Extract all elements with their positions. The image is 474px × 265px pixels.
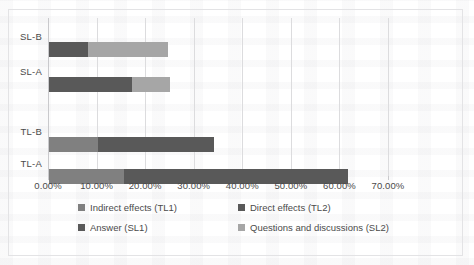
gridline bbox=[242, 18, 243, 176]
gridline bbox=[194, 18, 195, 176]
legend-swatch-icon bbox=[238, 204, 245, 211]
legend-label: Indirect effects (TL1) bbox=[90, 202, 177, 213]
legend-label: Direct effects (TL2) bbox=[250, 202, 331, 213]
value-axis-label: 10.00% bbox=[71, 180, 123, 191]
bar-segment[interactable] bbox=[132, 77, 171, 92]
value-axis-label: 40.00% bbox=[216, 180, 268, 191]
legend-swatch-icon bbox=[238, 224, 245, 231]
legend-swatch-icon bbox=[78, 204, 85, 211]
bar-segment[interactable] bbox=[49, 137, 98, 152]
value-axis-label: 70.00% bbox=[362, 180, 414, 191]
legend-item[interactable]: Direct effects (TL2) bbox=[238, 202, 331, 213]
category-label-sl-b: SL-B bbox=[0, 31, 42, 42]
value-axis-label: 0.00% bbox=[22, 180, 74, 191]
legend-label: Answer (SL1) bbox=[90, 222, 148, 233]
bar-segment[interactable] bbox=[98, 137, 215, 152]
bar-segment[interactable] bbox=[49, 42, 88, 57]
bar-row-sl-b[interactable] bbox=[49, 42, 168, 57]
bar-segment[interactable] bbox=[88, 42, 168, 57]
value-axis-label: 30.00% bbox=[168, 180, 220, 191]
category-label-sl-a: SL-A bbox=[0, 66, 42, 77]
bar-row-sl-a[interactable] bbox=[49, 77, 170, 92]
value-axis-label: 20.00% bbox=[119, 180, 171, 191]
gridline bbox=[388, 18, 389, 176]
gridline bbox=[291, 18, 292, 176]
gridline bbox=[339, 18, 340, 176]
legend-item[interactable]: Indirect effects (TL1) bbox=[78, 202, 177, 213]
value-axis-label: 60.00% bbox=[313, 180, 365, 191]
legend-label: Questions and discussions (SL2) bbox=[250, 222, 389, 233]
value-axis-label: 50.00% bbox=[265, 180, 317, 191]
legend-item[interactable]: Questions and discussions (SL2) bbox=[238, 222, 389, 233]
category-label-tl-a: TL-A bbox=[0, 158, 42, 169]
bar-row-tl-b[interactable] bbox=[49, 137, 214, 152]
bar-segment[interactable] bbox=[49, 77, 132, 92]
category-label-tl-b: TL-B bbox=[0, 126, 42, 137]
plot-area bbox=[48, 18, 388, 176]
legend-swatch-icon bbox=[78, 224, 85, 231]
legend-item[interactable]: Answer (SL1) bbox=[78, 222, 148, 233]
